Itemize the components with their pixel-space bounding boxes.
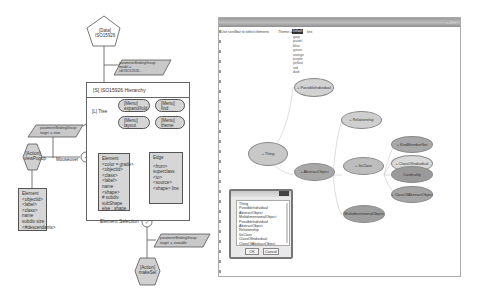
popup-line: subdiv size: [22, 219, 43, 225]
param-line3: rdl:ISO15926...: [119, 69, 156, 73]
menu-expand-fold[interactable]: [Menu] expand/fold: [118, 99, 150, 112]
element-line: <objectid>: [102, 167, 126, 173]
edge-mapping-box: Edge <from> superclass <to> <source> <sh…: [149, 152, 183, 204]
action-view-popup: [Action] viewPopup: [24, 151, 42, 162]
tree-node-relationship[interactable]: + Relationship: [341, 111, 382, 129]
element-line: else : shape: [102, 206, 126, 212]
action-make-selection: [Action] makeSel: [137, 265, 158, 276]
menu-layout[interactable]: [Menu] layout: [118, 116, 150, 129]
bottom-parameter-binding: parameterBindingGroup: target := viewabl…: [160, 236, 197, 245]
tree-node-cardinality[interactable]: Cardinality: [391, 166, 433, 183]
tree-node-its-class[interactable]: + ItsClass: [343, 157, 384, 175]
tree-node-multidimensional-object[interactable]: MultidimensionalObject: [343, 205, 385, 223]
tree-node-possible-individual[interactable]: + PossibleIndividual: [294, 78, 334, 97]
menu-theme[interactable]: [Menu] theme: [155, 116, 185, 129]
menu-find[interactable]: [Menu] find: [155, 99, 185, 112]
param-line2: target := viewable: [160, 241, 197, 246]
menu-label: layout: [124, 123, 144, 128]
tree-node-abstract-object[interactable]: + AbstractObject: [294, 163, 335, 181]
param-line1: parameterBindingGroup:: [160, 236, 197, 241]
tree-node-thing[interactable]: + Thing: [248, 142, 288, 166]
action-label: viewPopup: [24, 156, 42, 161]
param-line2: target := view: [40, 131, 77, 136]
left-parameter-binding: parameterBindingGroup: target := view: [40, 126, 77, 135]
mouseover-label: Mouseover: [56, 157, 78, 162]
menu-label: theme: [161, 123, 179, 128]
popup-line: <#descendants>: [22, 225, 43, 231]
tree-node-class-of-abstract-object[interactable]: + ClassOfAbstractObject: [391, 186, 433, 203]
action-label: makeSel: [137, 270, 158, 275]
data-node-iso15926: [Data] ISO15926: [95, 28, 115, 39]
edge-line: <shape> line: [153, 186, 179, 192]
menu-label: find: [161, 106, 179, 111]
dialog-close-icon[interactable]: [279, 191, 289, 196]
element-list-item[interactable]: ClassOfAbstractObject: [239, 242, 287, 246]
select-element-dialog: Thing PossibleIndividual AbstractObject …: [229, 189, 293, 259]
dialog-titlebar[interactable]: [231, 191, 291, 197]
data-node-line2: ISO15926: [95, 33, 115, 38]
tree-node-label: [L] Tree: [92, 109, 107, 114]
popup-element-box: Element <objectid> <label> <class> name …: [18, 188, 47, 231]
param-line1: parameterBindingGroup:: [40, 126, 77, 131]
hierarchy-panel-title: [S] ISO15926 Hierarchy: [87, 83, 189, 98]
element-selection-label: Element Selection: [100, 219, 139, 224]
list-scrollbar[interactable]: [286, 203, 288, 243]
element-mapping-box: Element <color = grade> <objectid> <clas…: [98, 153, 130, 211]
menu-label: expand/fold: [124, 106, 144, 111]
element-list[interactable]: Thing PossibleIndividual AbstractObject …: [236, 200, 290, 246]
tree-node-kind-member-set[interactable]: + KindMemberSet: [391, 136, 433, 153]
top-parameter-binding: parameterBindingGroup: model = rdl:ISO15…: [119, 61, 156, 74]
ok-button[interactable]: OK: [245, 248, 259, 255]
cancel-button[interactable]: Cancel: [263, 248, 279, 255]
